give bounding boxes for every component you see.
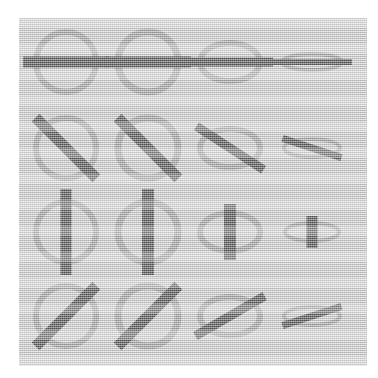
- bar: [32, 282, 101, 351]
- bar: [23, 57, 109, 68]
- cell-r4c4: [281, 303, 342, 329]
- cell-r1c2: [105, 32, 191, 92]
- cells-group: [23, 32, 352, 350]
- cell-r1c4: [272, 54, 352, 70]
- cell-r4c2: [114, 282, 183, 351]
- cell-r1c3: [187, 43, 273, 81]
- shape-grid-panel: [19, 18, 367, 366]
- cell-r2c1: [32, 114, 101, 183]
- cell-r1c1: [23, 32, 109, 92]
- shape-grid-svg: [19, 18, 367, 366]
- figure-root: Ellipse and bar orientation grid: [0, 0, 378, 378]
- cell-r2c3: [194, 122, 266, 173]
- bar: [32, 114, 101, 183]
- bar: [224, 204, 236, 260]
- cell-r3c4: [285, 216, 339, 248]
- bar: [272, 59, 352, 65]
- bar: [114, 114, 183, 183]
- bar: [142, 189, 154, 275]
- cell-r2c4: [281, 135, 342, 161]
- bar: [61, 189, 72, 275]
- cell-r4c3: [193, 292, 267, 340]
- bar: [307, 216, 318, 248]
- cell-r3c2: [118, 189, 178, 275]
- bar: [187, 58, 273, 67]
- figure-title: Ellipse and bar orientation grid: [0, 0, 1, 1]
- cell-r3c1: [36, 189, 96, 275]
- bar: [105, 57, 191, 68]
- cell-r3c3: [200, 204, 260, 260]
- cell-r4c1: [32, 282, 101, 351]
- bar: [114, 282, 183, 351]
- cell-r2c2: [114, 114, 183, 183]
